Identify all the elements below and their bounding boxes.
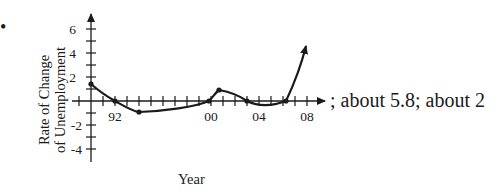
y-axis-label-line1: Rate of Change: [36, 38, 52, 162]
y-axis-label-line2: of Unemployment: [52, 38, 68, 162]
y-tick-4: 4: [69, 46, 76, 61]
x-tick-92: 92: [108, 109, 122, 124]
x-axis-label: Year: [178, 171, 205, 188]
y-tick-neg2: -2: [71, 118, 82, 133]
y-tick-2: 2: [69, 70, 76, 85]
x-tick-04: 04: [252, 109, 266, 124]
x-tick-08: 08: [300, 109, 314, 124]
x-tick-00: 00: [204, 109, 218, 124]
y-tick-6: 6: [69, 22, 76, 37]
answer-caption: ; about 5.8; about 2: [330, 89, 485, 112]
y-tick-neg4: -4: [71, 142, 82, 157]
